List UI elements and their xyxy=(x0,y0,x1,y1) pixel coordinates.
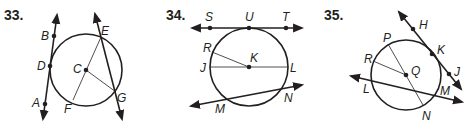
label-j: J xyxy=(453,65,461,79)
label-r: R xyxy=(364,52,373,66)
figure-33: 33. B D A E C F G xyxy=(4,7,126,119)
label-h: H xyxy=(419,18,428,32)
radius-qr xyxy=(373,61,406,75)
point-a xyxy=(43,102,48,107)
label-r: R xyxy=(203,41,212,55)
label-f: F xyxy=(64,102,72,116)
label-n: N xyxy=(422,109,431,123)
point-c xyxy=(84,68,89,73)
point-k xyxy=(247,65,252,70)
tangent-line-hj xyxy=(399,12,461,89)
label-b: B xyxy=(41,29,49,43)
point-t xyxy=(284,26,289,31)
label-q: Q xyxy=(411,64,420,78)
label-l: L xyxy=(290,61,297,75)
label-k: K xyxy=(437,43,446,57)
problem-number: 34. xyxy=(166,7,185,23)
label-m: M xyxy=(440,84,450,98)
geometry-figures: 33. B D A E C F G 34. S U T R K J L xyxy=(0,0,473,125)
label-d: D xyxy=(37,59,46,73)
point-h xyxy=(411,27,416,32)
point-q xyxy=(404,73,409,78)
figure-35: 35. H P K R Q J L M N xyxy=(324,7,462,123)
label-u: U xyxy=(245,10,254,24)
label-e: E xyxy=(101,24,110,38)
label-g: G xyxy=(117,91,126,105)
label-t: T xyxy=(282,10,291,24)
point-j xyxy=(447,72,452,77)
label-j: J xyxy=(199,61,207,75)
label-m: M xyxy=(215,102,225,116)
problem-number: 33. xyxy=(4,7,23,23)
point-k xyxy=(430,52,435,57)
point-u xyxy=(247,26,252,31)
problem-number: 35. xyxy=(324,7,343,23)
point-b xyxy=(52,34,57,39)
label-k: K xyxy=(250,51,259,65)
label-p: P xyxy=(383,31,391,45)
label-n: N xyxy=(284,91,293,105)
point-s xyxy=(208,26,213,31)
label-l: L xyxy=(363,82,370,96)
figure-34: 34. S U T R K J L M N xyxy=(166,7,302,116)
radius-kr xyxy=(212,52,249,67)
label-a: A xyxy=(31,96,40,110)
label-c: C xyxy=(73,62,82,76)
point-d xyxy=(48,64,53,69)
label-s: S xyxy=(205,10,213,24)
